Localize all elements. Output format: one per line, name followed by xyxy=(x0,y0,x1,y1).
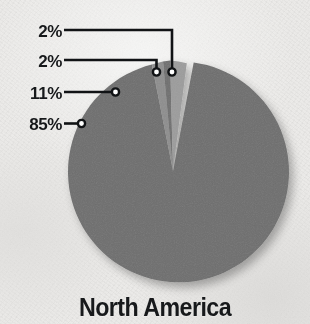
callout-label-2-second: 2% xyxy=(6,53,62,70)
leader-marker-11[interactable] xyxy=(112,88,119,95)
callout-label-2-top: 2% xyxy=(6,23,62,40)
chart-title: North America xyxy=(11,293,299,322)
callout-label-11: 11% xyxy=(0,85,62,102)
leader-marker-2-second[interactable] xyxy=(153,68,160,75)
pie-slices-group xyxy=(68,61,289,283)
pie-chart-figure: 2% 2% 11% 85% North America xyxy=(0,0,310,324)
leader-marker-2-top[interactable] xyxy=(168,68,175,75)
leader-line-2-second xyxy=(64,60,157,68)
callout-label-85: 85% xyxy=(0,116,62,133)
leader-marker-85[interactable] xyxy=(78,120,85,127)
pie-plot-area xyxy=(0,0,310,324)
pie-svg xyxy=(0,0,310,324)
